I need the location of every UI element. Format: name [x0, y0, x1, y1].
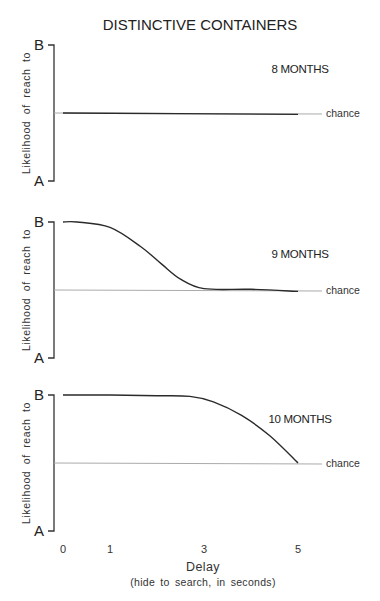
chance-label: chance — [326, 457, 360, 469]
panel-label: 9 MONTHS — [271, 248, 329, 260]
x-tick-label: 3 — [201, 543, 207, 555]
series-line — [63, 222, 298, 292]
x-axis-label: Delay — [186, 560, 220, 574]
chart: DISTINCTIVE CONTAINERS BALikelihood of r… — [0, 0, 380, 601]
y-top-label: B — [34, 36, 44, 53]
panel-2: BALikelihood of reach tochance9 MONTHS — [20, 213, 360, 366]
panel-1: BALikelihood of reach tochance8 MONTHS — [20, 36, 360, 189]
y-top-label: B — [34, 386, 44, 403]
y-axis-label: Likelihood of reach to — [20, 229, 32, 351]
x-axis-sublabel: (hide to search, in seconds) — [130, 576, 275, 588]
panel-label: 10 MONTHS — [268, 413, 332, 425]
chance-line — [54, 463, 322, 464]
y-axis-line — [48, 395, 54, 531]
chance-label: chance — [326, 107, 360, 119]
panel-3: BALikelihood of reach tochance10 MONTHS — [20, 386, 360, 539]
chance-label: chance — [326, 284, 360, 296]
panel-label: 8 MONTHS — [271, 63, 329, 75]
x-tick-label: 1 — [107, 543, 113, 555]
y-top-label: B — [34, 213, 44, 230]
panels: BALikelihood of reach tochance8 MONTHSBA… — [20, 36, 360, 539]
y-axis-label: Likelihood of reach to — [20, 52, 32, 174]
x-ticks: 0 1 3 5 — [60, 543, 301, 555]
y-bottom-label: A — [34, 172, 44, 189]
chart-title: DISTINCTIVE CONTAINERS — [103, 16, 298, 33]
y-bottom-label: A — [34, 522, 44, 539]
x-tick-label: 0 — [60, 543, 66, 555]
y-axis-line — [48, 45, 54, 181]
series-line — [63, 395, 298, 463]
series-line — [63, 113, 298, 114]
y-axis-label: Likelihood of reach to — [20, 402, 32, 524]
x-tick-label: 5 — [295, 543, 301, 555]
y-axis-line — [48, 222, 54, 358]
y-bottom-label: A — [34, 349, 44, 366]
